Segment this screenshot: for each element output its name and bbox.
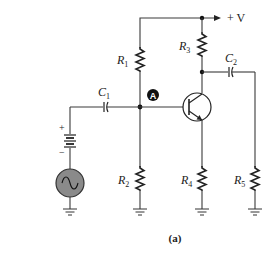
ground-r2 bbox=[133, 209, 147, 215]
capacitor-c2: C2 bbox=[202, 51, 255, 77]
r5-label: R5 bbox=[233, 173, 245, 189]
resistor-r1: R1 bbox=[116, 47, 144, 72]
r1-label: R1 bbox=[116, 53, 128, 69]
figure-caption: (a) bbox=[169, 232, 182, 245]
resistor-r2: R2 bbox=[117, 166, 144, 191]
c1-label: C1 bbox=[98, 85, 110, 101]
r2-label: R2 bbox=[117, 173, 129, 189]
circuit-diagram: + V R1 R3 C2 A C1 bbox=[0, 0, 278, 255]
ground-r4 bbox=[195, 209, 209, 215]
r3-label: R3 bbox=[178, 39, 190, 55]
svg-text:A: A bbox=[150, 91, 157, 101]
capacitor-c1: C1 bbox=[70, 85, 140, 112]
npn-transistor bbox=[183, 93, 211, 121]
battery-minus-label: − bbox=[59, 147, 65, 158]
node-a-badge: A bbox=[147, 89, 159, 101]
ac-source bbox=[56, 169, 84, 197]
arrow-icon bbox=[214, 15, 221, 21]
ground-source bbox=[63, 209, 77, 215]
supply-rail: + V bbox=[140, 11, 246, 48]
dc-battery: + − bbox=[59, 122, 76, 158]
c2-label: C2 bbox=[225, 51, 237, 67]
supply-label: + V bbox=[227, 11, 246, 25]
battery-plus-label: + bbox=[59, 122, 65, 133]
ground-r5 bbox=[248, 209, 262, 215]
resistor-r3: R3 bbox=[178, 18, 206, 57]
resistor-r5: R5 bbox=[233, 166, 259, 191]
resistor-r4: R4 bbox=[180, 166, 206, 191]
r4-label: R4 bbox=[180, 173, 192, 189]
